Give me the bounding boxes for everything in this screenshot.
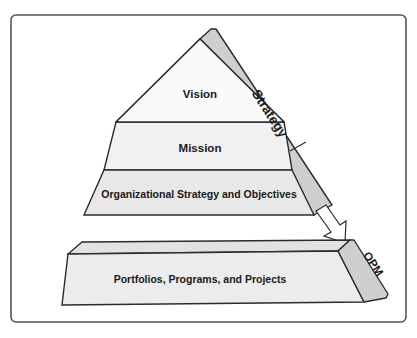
level-label-org-strategy: Organizational Strategy and Objectives	[101, 188, 297, 200]
level-label-mission: Mission	[179, 142, 222, 154]
strategy-opm-diagram: Vision Mission Organizational Strategy a…	[0, 0, 417, 338]
level-label-vision: Vision	[183, 88, 217, 100]
base-label: Portfolios, Programs, and Projects	[114, 273, 287, 285]
